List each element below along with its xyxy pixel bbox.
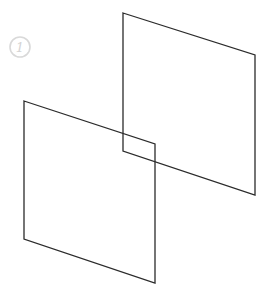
front-panel	[24, 101, 155, 283]
step-badge: 1	[10, 37, 30, 57]
diagram-canvas: 1	[0, 0, 270, 303]
back-panel	[123, 13, 255, 195]
badge-number: 1	[16, 40, 24, 55]
